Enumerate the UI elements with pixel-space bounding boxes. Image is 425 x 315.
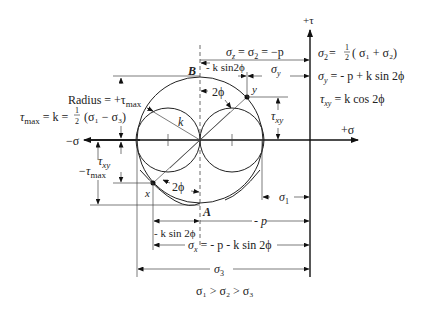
svg-text:σ2=: σ2= [318,46,336,62]
angle-upper: 2ϕ [201,85,231,108]
point-y-label: y [251,83,257,95]
sigma-negative-label: −σ [66,134,80,148]
sigma-positive-label: +σ [341,123,355,137]
svg-text:τxy = k cos 2ϕ: τxy = k cos 2ϕ [320,92,385,108]
angle-lower-label: 2ϕ [172,180,184,194]
svg-text:σ1: σ1 [279,190,289,206]
neg-p-label: - p [254,214,267,228]
sigma-z-label: σz = σ2 = −p [226,45,284,61]
tau-axis: +τ [303,14,314,277]
point-x-label: x [144,187,150,199]
angle-lower: 2ϕ [163,180,199,194]
svg-text:Radius = +τmax: Radius = +τmax [68,93,142,109]
equation-tau-xy: τxy = k cos 2ϕ [320,92,385,108]
tau-max-equation: τmax = k = 1 2 (σ₁ − σ₃) [20,106,126,126]
svg-text:σy = - p + k sin 2ϕ: σy = - p + k sin 2ϕ [318,69,404,85]
point-a-label: A [202,205,211,219]
k-sin-top-label: - k sin2ϕ [206,61,245,73]
equation-sigma-y: σy = - p + k sin 2ϕ [318,69,404,85]
svg-text:2: 2 [345,53,349,62]
tau-positive-label: +τ [303,14,314,26]
sigma-y-label: σy [271,62,281,78]
svg-text:τxy: τxy [98,154,110,170]
mohr-circle-diagram: +σ −σ +τ y x B A k 2ϕ [0,0,425,315]
svg-text:σ3: σ3 [214,262,224,278]
svg-text:1: 1 [345,43,349,52]
equation-sigma-2: σ2= 1 2 ( σ₁ + σ₂) [318,43,397,62]
svg-text:τxy: τxy [271,109,283,125]
svg-text:σx = - p - k sin 2ϕ: σx = - p - k sin 2ϕ [188,238,272,254]
svg-text:1: 1 [75,106,79,115]
angle-upper-label: 2ϕ [212,85,224,99]
svg-text:2: 2 [75,117,79,126]
svg-text:( σ₁ + σ₂): ( σ₁ + σ₂) [352,46,397,60]
sigma-axis: +σ −σ [66,123,358,148]
svg-text:τmax = k =: τmax = k = [20,110,69,126]
svg-text:(σ₁ − σ₃): (σ₁ − σ₃) [84,110,126,124]
radius-equation: Radius = +τmax [68,93,142,109]
inequality-label: σ₁ > σ₂ > σ₃ [196,284,254,298]
radius-k-label: k [178,115,184,129]
